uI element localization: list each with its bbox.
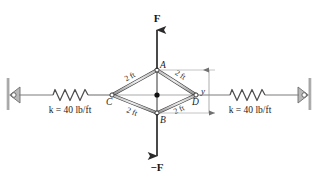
left-wall-plate: [7, 78, 10, 110]
node-label-B: B: [160, 115, 166, 125]
right-pin-circle: [302, 93, 307, 98]
right-spring-coil: [230, 90, 265, 101]
figure-canvas: k = 40 lb/ft k = 40 lb/ft: [0, 0, 318, 184]
left-pin-circle: [12, 93, 17, 98]
node-label-D: D: [191, 97, 199, 107]
right-wall-support: [298, 78, 312, 110]
dimension-label-y: y: [200, 86, 205, 96]
right-spring-assembly: k = 40 lb/ft: [196, 90, 299, 116]
right-spring-label: k = 40 lb/ft: [229, 105, 272, 115]
force-up-label: F: [154, 12, 161, 24]
left-wall-support: [7, 78, 21, 110]
left-spring-assembly: k = 40 lb/ft: [19, 90, 112, 116]
force-down-label: −F: [151, 161, 164, 173]
member-label-CB: 2 ft: [125, 105, 139, 118]
linkage-diagram: k = 40 lb/ft k = 40 lb/ft: [0, 0, 318, 184]
center-pin: [154, 92, 159, 97]
right-wall-plate: [308, 78, 311, 110]
left-spring-coil: [53, 90, 88, 101]
left-spring-label: k = 40 lb/ft: [49, 105, 92, 115]
node-label-A: A: [159, 60, 166, 70]
member-CA: [112, 70, 157, 95]
node-label-C: C: [106, 97, 113, 107]
